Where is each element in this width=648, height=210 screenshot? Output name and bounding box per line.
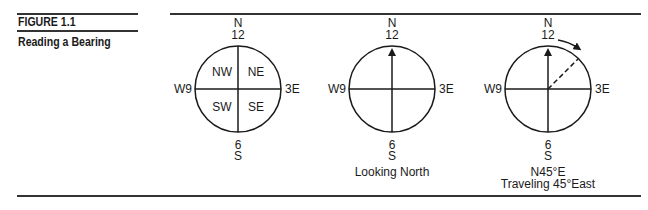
north-number: 12 bbox=[231, 28, 245, 42]
south-letter: S bbox=[544, 149, 552, 163]
west-label: W9 bbox=[484, 82, 502, 96]
compass-n45e: N 12 6 S W9 3E N45°E Traveling 45°East bbox=[484, 16, 610, 191]
south-letter: S bbox=[234, 149, 242, 163]
compass-quadrants: N 12 6 S W9 3E NW NE SW SE bbox=[174, 16, 300, 163]
north-number: 12 bbox=[541, 28, 555, 42]
east-label: 3E bbox=[439, 82, 454, 96]
quadrant-nw: NW bbox=[212, 65, 233, 79]
east-label: 3E bbox=[285, 82, 300, 96]
bearing-diagram: N 12 6 S W9 3E NW NE SW SE N 12 6 S W9 3… bbox=[0, 0, 648, 210]
north-number: 12 bbox=[385, 28, 399, 42]
caption-description: Traveling 45°East bbox=[501, 177, 596, 191]
quadrant-ne: NE bbox=[248, 65, 265, 79]
caption: Looking North bbox=[355, 165, 430, 179]
quadrant-se: SE bbox=[248, 100, 264, 114]
compass-looking-north: N 12 6 S W9 3E Looking North bbox=[328, 16, 454, 179]
south-letter: S bbox=[388, 149, 396, 163]
quadrant-sw: SW bbox=[212, 100, 232, 114]
bearing-line-dashed bbox=[548, 59, 578, 89]
west-label: W9 bbox=[328, 82, 346, 96]
east-label: 3E bbox=[595, 82, 610, 96]
clockwise-rotation-arrow-icon bbox=[558, 40, 578, 48]
west-label: W9 bbox=[174, 82, 192, 96]
